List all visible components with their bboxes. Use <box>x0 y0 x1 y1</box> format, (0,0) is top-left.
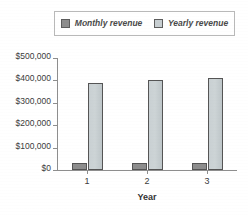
y-tick-label: $200,000 <box>16 119 51 128</box>
bar-yearly-revenue-3 <box>208 78 223 170</box>
bar-monthly-revenue-2 <box>132 163 147 170</box>
x-tick-mark <box>147 170 148 174</box>
y-tick-label: $500,000 <box>16 52 51 61</box>
y-tick-mark <box>53 80 57 81</box>
plot-area: $0$100,000$200,000$300,000$400,000$500,0… <box>57 58 237 170</box>
bar-monthly-revenue-1 <box>72 163 87 170</box>
y-tick-mark <box>53 170 57 171</box>
y-tick-mark <box>53 148 57 149</box>
y-tick-label: $400,000 <box>16 74 51 83</box>
y-tick-label: $100,000 <box>16 142 51 151</box>
y-tick-mark <box>53 58 57 59</box>
bar-yearly-revenue-2 <box>148 80 163 170</box>
light-gray-swatch-icon <box>154 19 163 28</box>
y-axis-line <box>57 58 58 170</box>
bar-monthly-revenue-3 <box>192 163 207 170</box>
x-tick-label-3: 3 <box>192 177 222 186</box>
y-tick-mark <box>53 103 57 104</box>
legend-item-yearly-revenue: Yearly revenue <box>154 19 228 28</box>
x-tick-label-2: 2 <box>132 177 162 186</box>
x-axis-title: Year <box>57 193 237 202</box>
x-tick-label-1: 1 <box>72 177 102 186</box>
bar-chart: Monthly revenue Yearly revenue $0$100,00… <box>0 0 248 215</box>
legend-label-monthly-revenue: Monthly revenue <box>75 19 143 28</box>
legend-item-monthly-revenue: Monthly revenue <box>61 19 143 28</box>
y-tick-label: $0 <box>42 164 51 173</box>
x-tick-mark <box>87 170 88 174</box>
y-tick-mark <box>53 125 57 126</box>
dark-gray-swatch-icon <box>61 19 70 28</box>
y-tick-label: $300,000 <box>16 97 51 106</box>
bar-yearly-revenue-1 <box>88 83 103 170</box>
x-tick-mark <box>207 170 208 174</box>
legend-label-yearly-revenue: Yearly revenue <box>168 19 228 28</box>
chart-legend: Monthly revenue Yearly revenue <box>54 11 235 36</box>
